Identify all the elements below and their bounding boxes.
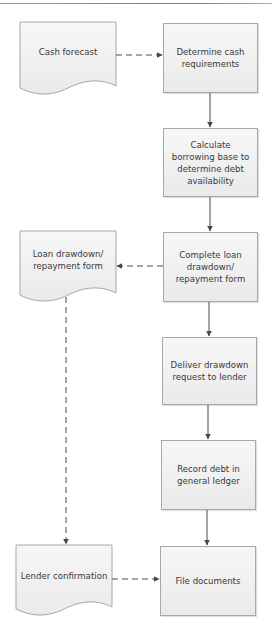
- document-label: Cash forecast: [39, 46, 98, 58]
- process-calculate-borrowing-base: Calculate borrowing base to determine de…: [163, 128, 258, 197]
- process-deliver-drawdown-request: Deliver drawdown request to lender: [162, 337, 257, 405]
- flowchart-canvas: [0, 0, 273, 629]
- process-file-documents: File documents: [160, 546, 256, 616]
- process-complete-loan-form: Complete loan drawdown/ repayment form: [163, 232, 258, 302]
- process-label: Calculate borrowing base to determine de…: [168, 139, 253, 187]
- document-label: Lender confirmation: [21, 570, 108, 582]
- process-label: Deliver drawdown request to lender: [167, 359, 252, 383]
- process-determine-cash-requirements: Determine cash requirements: [163, 23, 258, 93]
- document-loan-form: Loan drawdown/ repayment form: [20, 231, 116, 289]
- process-label: File documents: [176, 575, 241, 587]
- process-label: Complete loan drawdown/ repayment form: [168, 249, 253, 285]
- process-record-debt: Record debt in general ledger: [161, 440, 256, 510]
- document-cash-forecast: Cash forecast: [20, 22, 116, 82]
- process-label: Record debt in general ledger: [166, 463, 251, 487]
- document-label: Loan drawdown/ repayment form: [24, 248, 112, 272]
- process-label: Determine cash requirements: [168, 46, 253, 70]
- document-lender-confirmation: Lender confirmation: [16, 545, 112, 607]
